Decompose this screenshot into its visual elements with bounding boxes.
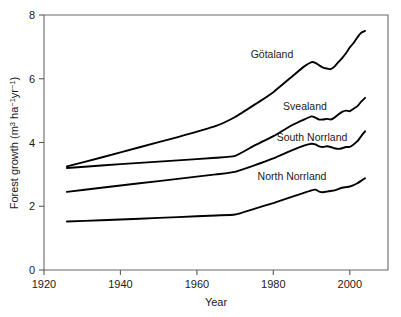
series-label-gotaland: Götaland bbox=[251, 48, 294, 60]
x-tick-label-1960: 1960 bbox=[185, 278, 209, 290]
x-tick-label-1980: 1980 bbox=[261, 278, 285, 290]
series-label-south-norrland: South Norrland bbox=[277, 131, 348, 143]
y-axis-title-main: Forest growth (m bbox=[8, 126, 20, 209]
series-label-svealand: Svealand bbox=[283, 100, 327, 112]
y-axis-ticks bbox=[39, 15, 44, 270]
series-label-north-norrland: North Norrland bbox=[258, 170, 327, 182]
y-tick-label-0: 0 bbox=[29, 264, 35, 276]
y-axis-title-sup-minus1-b: −1 bbox=[8, 80, 17, 89]
y-tick-label-8: 8 bbox=[29, 9, 35, 21]
figure-container: 0 2 4 6 8 1920 1940 1960 1980 2000 Year … bbox=[0, 0, 401, 317]
y-tick-label-6: 6 bbox=[29, 73, 35, 85]
line-chart: 0 2 4 6 8 1920 1940 1960 1980 2000 Year … bbox=[0, 0, 401, 317]
y-axis-title-sup-minus1-a: −1 bbox=[8, 98, 17, 107]
y-axis-title-end: ) bbox=[8, 77, 20, 81]
x-tick-label-1920: 1920 bbox=[32, 278, 56, 290]
x-tick-label-1940: 1940 bbox=[108, 278, 132, 290]
x-axis-title: Year bbox=[205, 296, 228, 308]
y-axis-title-mid-yr: yr bbox=[8, 89, 20, 99]
y-tick-label-4: 4 bbox=[29, 137, 35, 149]
x-tick-label-2000: 2000 bbox=[338, 278, 362, 290]
y-axis-title-mid-ha: ha bbox=[8, 106, 20, 122]
x-axis-ticks bbox=[44, 270, 350, 275]
y-axis-title: Forest growth (m3 ha−1yr−1) bbox=[8, 77, 21, 210]
y-tick-label-2: 2 bbox=[29, 200, 35, 212]
